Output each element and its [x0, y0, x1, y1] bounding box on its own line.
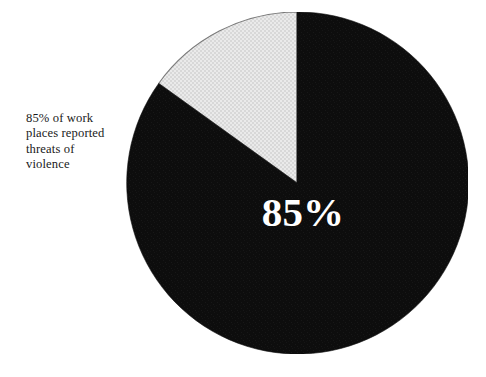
pie-chart-figure: 85% of work places reported threats of v…	[0, 0, 486, 377]
pie-chart-svg	[126, 12, 468, 354]
pie-chart: 85%	[126, 12, 468, 354]
